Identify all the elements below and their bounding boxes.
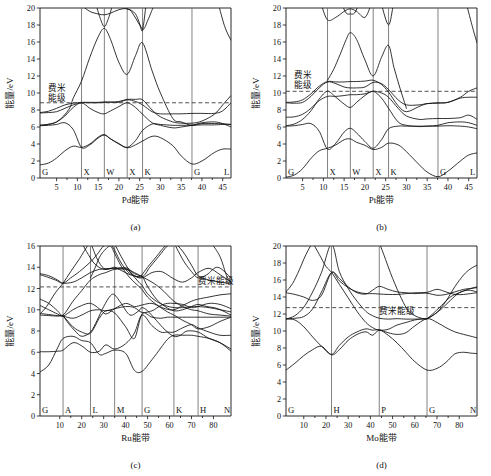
- x-tick-label: 10: [73, 183, 81, 192]
- band-curve: [286, 80, 477, 112]
- y-axis-title: 能量/eV: [4, 315, 15, 346]
- y-tick-label: 12: [27, 72, 35, 81]
- band-curve: [286, 91, 477, 126]
- y-tick-label: 14: [273, 293, 281, 302]
- x-tick-label: 30: [344, 421, 352, 430]
- y-tick-label: 6: [31, 123, 35, 132]
- y-tick-label: 14: [27, 55, 35, 64]
- panel-caption: (c): [131, 460, 141, 470]
- symmetry-point-label: G: [429, 405, 435, 415]
- chart-a: 0246810121416182051015202530354045GXWXKG…: [0, 0, 245, 238]
- x-tick-label: 80: [209, 421, 217, 430]
- panel-caption: (d): [376, 460, 387, 470]
- fermi-level-label-line2: 能级: [48, 92, 66, 103]
- band-curve: [40, 28, 231, 125]
- x-tick-label: 30: [100, 421, 108, 430]
- y-tick-label: 16: [273, 276, 281, 285]
- y-tick-label: 4: [31, 140, 35, 149]
- x-tick-label: 25: [382, 183, 390, 192]
- x-tick-label: 40: [366, 421, 374, 430]
- y-tick-label: 20: [273, 242, 281, 251]
- symmetry-point-label: X: [84, 167, 91, 177]
- band-curve: [63, 294, 231, 349]
- symmetry-point-label: L: [470, 167, 475, 177]
- symmetry-point-label: H: [334, 405, 340, 415]
- y-tick-label: 2: [277, 395, 281, 404]
- x-tick-label: 15: [94, 183, 102, 192]
- y-tick-label: 0: [31, 412, 35, 421]
- y-axis-title: 能量/eV: [250, 77, 261, 108]
- fermi-level-label: 费米能级: [198, 275, 234, 286]
- x-tick-label: 10: [56, 421, 64, 430]
- y-tick-label: 12: [273, 72, 281, 81]
- y-tick-label: 16: [273, 38, 281, 47]
- y-tick-label: 0: [277, 174, 281, 183]
- y-tick-label: 8: [277, 106, 281, 115]
- y-tick-label: 20: [27, 4, 35, 13]
- symmetry-point-label: X: [330, 167, 337, 177]
- fermi-level-label: 费米能级: [379, 305, 415, 316]
- panel-d: 024681012141618201020304050607080GHPGN费米…: [246, 238, 491, 476]
- band-curve: [219, 5, 231, 41]
- bands-group: [40, 5, 231, 165]
- y-tick-label: 10: [27, 89, 35, 98]
- y-tick-label: 2: [31, 391, 35, 400]
- band-curve: [286, 330, 477, 370]
- x-tick-label: 10: [319, 183, 327, 192]
- x-tick-label: 5: [301, 183, 305, 192]
- x-axis-title: Mo能带: [366, 432, 397, 443]
- y-tick-label: 16: [27, 242, 35, 251]
- x-tick-label: 60: [411, 421, 419, 430]
- band-curve: [286, 139, 477, 177]
- x-tick-label: 10: [300, 421, 308, 430]
- x-tick-label: 80: [455, 421, 463, 430]
- x-axis-title: Pd能带: [122, 194, 150, 205]
- x-tick-label: 20: [322, 421, 330, 430]
- symmetry-point-label: M: [117, 405, 125, 415]
- symmetry-point-label: P: [381, 405, 386, 415]
- y-tick-label: 20: [273, 4, 281, 13]
- y-tick-label: 2: [31, 157, 35, 166]
- symmetry-point-label: N: [470, 405, 477, 415]
- symmetry-point-label: L: [92, 405, 97, 415]
- symmetry-point-label: L: [224, 167, 229, 177]
- symmetry-point-label: W: [352, 167, 361, 177]
- x-tick-label: 5: [55, 183, 59, 192]
- x-tick-label: 60: [165, 421, 173, 430]
- x-axis-title: Ru能带: [121, 432, 150, 443]
- x-tick-label: 20: [115, 183, 123, 192]
- y-tick-label: 12: [27, 285, 35, 294]
- y-axis-title: 能量/eV: [250, 315, 261, 346]
- band-curve: [427, 265, 477, 319]
- x-tick-label: 50: [143, 421, 151, 430]
- symmetry-point-label: K: [145, 167, 152, 177]
- x-tick-label: 20: [78, 421, 86, 430]
- symmetry-point-label: H: [200, 405, 206, 415]
- symmetry-point-label: G: [144, 405, 150, 415]
- y-tick-label: 4: [31, 370, 35, 379]
- x-tick-label: 70: [187, 421, 195, 430]
- x-tick-label: 40: [122, 421, 130, 430]
- y-tick-label: 0: [31, 174, 35, 183]
- y-tick-label: 12: [273, 310, 281, 319]
- chart-c: 02468101214161020304050607080GALMGKHN费米能…: [0, 238, 245, 476]
- x-tick-label: 40: [444, 183, 452, 192]
- y-tick-label: 4: [277, 140, 281, 149]
- x-tick-label: 50: [389, 421, 397, 430]
- panel-c: 02468101214161020304050607080GALMGKHN费米能…: [0, 238, 245, 476]
- fermi-level-label-line2: 能级: [294, 79, 312, 90]
- x-tick-label: 45: [465, 183, 473, 192]
- x-tick-label: 25: [136, 183, 144, 192]
- band-structure-figure: 0246810121416182051015202530354045GXWXKG…: [0, 0, 491, 476]
- bands-group: [40, 241, 231, 372]
- y-tick-label: 8: [277, 344, 281, 353]
- fermi-level-label: 费米: [48, 82, 66, 93]
- y-tick-label: 14: [273, 55, 281, 64]
- bands-group: [286, 5, 477, 178]
- y-tick-label: 2: [277, 157, 281, 166]
- y-tick-label: 18: [27, 21, 35, 30]
- y-tick-label: 10: [27, 306, 35, 315]
- symmetry-point-label: G: [194, 167, 200, 177]
- symmetry-point-label: G: [288, 405, 294, 415]
- band-curve: [40, 335, 231, 373]
